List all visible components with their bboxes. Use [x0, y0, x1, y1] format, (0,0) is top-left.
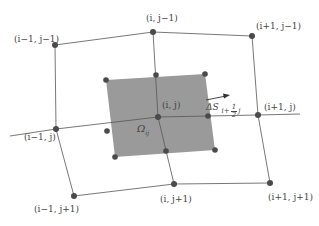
label-node-ip1-jm1: (i+1, j−1) [256, 22, 301, 31]
label-node-ip1-jp1: (i+1, j+1) [268, 193, 313, 202]
face-sub-fraction: 12 [231, 104, 237, 119]
label-node-i-jp1: (i, j+1) [160, 195, 192, 204]
cv-corner-top-right [202, 71, 208, 77]
delta-s-symbol: ΔS [206, 102, 219, 112]
face-sub-prefix: i+ [222, 107, 230, 115]
node-ip1-j [255, 112, 261, 118]
node-im1-jp1 [71, 193, 77, 199]
label-node-i-jm1: (i, j−1) [146, 14, 178, 23]
label-node-im1-jp1: (i−1, j+1) [34, 205, 79, 214]
cv-corner-bottom-left [112, 154, 118, 160]
node-i-jp1 [171, 181, 177, 187]
node-i-j [155, 114, 161, 120]
label-omega-ij: Ωij [137, 124, 149, 136]
label-node-im1-jm1: (i−1, j−1) [14, 35, 59, 44]
grid-line-col-im1 [55, 45, 74, 196]
face-subscript: i+12j [222, 107, 241, 115]
omega-subscript: ij [145, 129, 149, 136]
label-node-ip1-j: (i+1, j) [264, 103, 296, 112]
face-normal-arrow [206, 94, 230, 101]
label-delta-s-face: ΔS i+12j [206, 101, 240, 116]
cv-corner-bottom-right [212, 147, 218, 153]
cv-corner-top-left [103, 77, 109, 83]
face-sub-suffix: j [238, 107, 240, 115]
label-node-im1-j: (i−1, j) [24, 133, 56, 142]
node-ip1-jm1 [249, 33, 255, 39]
cv-face-bottom [163, 148, 169, 154]
cv-face-top [153, 72, 159, 78]
cv-face-left [104, 128, 110, 134]
node-i-jm1 [150, 29, 156, 35]
node-ip1-jp1 [267, 180, 273, 186]
label-node-i-j: (i, j) [162, 101, 180, 110]
fraction-denominator: 2 [232, 112, 236, 119]
